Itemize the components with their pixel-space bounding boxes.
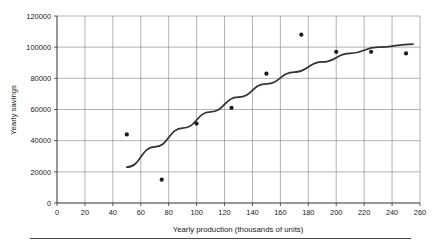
y-axis-tick-labels: 020000400006000080000100000120000 xyxy=(26,12,51,208)
y-tick-label: 20000 xyxy=(30,168,51,177)
x-tick-label: 140 xyxy=(246,208,258,217)
x-tick-label: 200 xyxy=(330,208,342,217)
x-tick-label: 120 xyxy=(218,208,230,217)
x-tick-label: 20 xyxy=(81,208,89,217)
y-axis-title: Yearly savings xyxy=(9,85,18,135)
x-tick-label: 100 xyxy=(190,208,202,217)
data-point xyxy=(299,33,303,37)
y-tick-label: 100000 xyxy=(26,43,51,52)
data-point xyxy=(369,50,373,54)
y-tick-label: 80000 xyxy=(30,74,51,83)
y-tick-label: 60000 xyxy=(30,105,51,114)
data-point xyxy=(195,121,199,125)
data-point xyxy=(404,51,408,55)
x-tick-label: 240 xyxy=(386,208,398,217)
x-tick-label: 0 xyxy=(55,208,59,217)
data-point xyxy=(125,132,129,136)
data-point xyxy=(264,72,268,76)
scatter-chart: 020406080100120140160180200220240260 020… xyxy=(0,0,441,246)
y-tick-label: 0 xyxy=(47,199,51,208)
data-point xyxy=(160,178,164,182)
footer-divider xyxy=(30,238,411,239)
x-axis-title: Yearly production (thousands of units) xyxy=(173,225,304,234)
y-tick-label: 40000 xyxy=(30,136,51,145)
data-point xyxy=(229,106,233,110)
x-axis-tick-labels: 020406080100120140160180200220240260 xyxy=(55,208,426,217)
chart-svg: 020406080100120140160180200220240260 020… xyxy=(0,0,441,246)
x-tick-label: 260 xyxy=(414,208,426,217)
y-tick-label: 120000 xyxy=(26,12,51,21)
x-tick-label: 40 xyxy=(109,208,117,217)
x-tick-label: 80 xyxy=(165,208,173,217)
x-tick-label: 220 xyxy=(358,208,370,217)
x-tick-label: 60 xyxy=(137,208,145,217)
data-point xyxy=(334,50,338,54)
x-tick-label: 160 xyxy=(274,208,286,217)
x-tick-label: 180 xyxy=(302,208,314,217)
